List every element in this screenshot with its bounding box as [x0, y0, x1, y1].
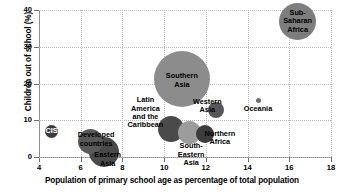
- y-tick-label: 10: [10, 115, 32, 124]
- y-tick-label: 40: [10, 5, 32, 14]
- x-tick: [331, 157, 332, 162]
- x-axis-title: Population of primary school age as perc…: [0, 176, 344, 185]
- plot-area: [39, 10, 331, 157]
- gridline-horizontal: [39, 47, 331, 48]
- gridline-vertical: [331, 10, 332, 157]
- bubble-cis[interactable]: [45, 125, 58, 138]
- gridline-vertical: [248, 10, 249, 157]
- bubble-oceania[interactable]: [256, 98, 261, 103]
- x-tick-label: 10: [154, 163, 174, 172]
- bubble-northern-africa[interactable]: [196, 125, 214, 143]
- bubble-sub-saharan-africa[interactable]: [279, 3, 316, 40]
- x-tick-label: 14: [238, 163, 258, 172]
- gridline-horizontal: [39, 157, 331, 158]
- bubble-southern-asia[interactable]: [154, 51, 210, 107]
- x-tick-label: 16: [279, 163, 299, 172]
- x-tick-label: 12: [196, 163, 216, 172]
- y-tick-label: 20: [10, 79, 32, 88]
- y-tick-label: 0: [10, 152, 32, 161]
- bubble-western-asia[interactable]: [208, 102, 224, 118]
- y-tick-label: 30: [10, 42, 32, 51]
- bubble-developed-countries[interactable]: [78, 129, 103, 154]
- x-tick-label: 8: [112, 163, 132, 172]
- gridline-vertical: [122, 10, 123, 157]
- x-tick-label: 18: [321, 163, 341, 172]
- x-tick-label: 6: [71, 163, 91, 172]
- bubble-chart: Children out of school (%) Population of…: [0, 0, 344, 192]
- x-tick-label: 4: [29, 163, 49, 172]
